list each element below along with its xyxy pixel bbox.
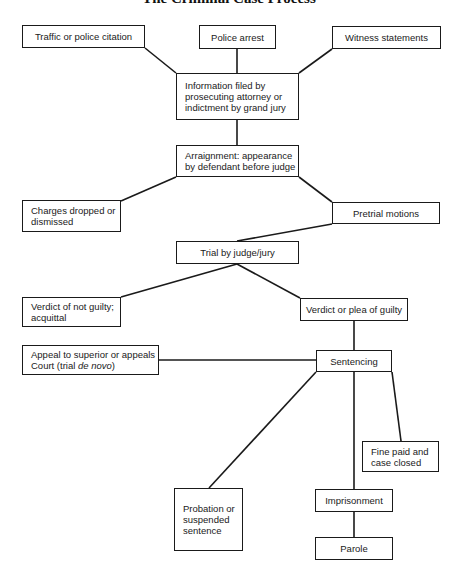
edge-trial-guilty: [237, 264, 300, 298]
node-label: Witness statements: [345, 32, 428, 43]
node-witness-statements: Witness statements: [332, 26, 441, 49]
node-verdict-guilty: Verdict or plea of guilty: [300, 298, 408, 321]
node-pretrial-motions: Pretrial motions: [332, 202, 440, 224]
node-label: Appeal to superior or appeals Court (tri…: [31, 349, 157, 371]
node-label: Charges dropped or dismissed: [31, 205, 119, 227]
node-information-filed: Information filed by prosecuting attorne…: [176, 73, 299, 120]
node-arraignment: Arraignment: appearance by defendant bef…: [176, 145, 299, 177]
node-label: Parole: [340, 543, 367, 554]
appeal-label-suffix: ): [112, 360, 115, 371]
appeal-label-italic: de novo: [78, 360, 112, 371]
node-parole: Parole: [315, 537, 393, 560]
node-label: Traffic or police citation: [35, 31, 132, 42]
node-label: Fine paid and case closed: [371, 446, 433, 468]
node-traffic-citation: Traffic or police citation: [22, 25, 145, 48]
node-label: Police arrest: [211, 32, 264, 43]
edge-arraignment-charges: [121, 177, 176, 201]
node-police-arrest: Police arrest: [199, 25, 276, 49]
node-label: Arraignment: appearance by defendant bef…: [185, 150, 297, 172]
node-label: Probation or suspended sentence: [183, 503, 235, 536]
edge-pretrial-trial: [237, 224, 332, 241]
edge-witness-information: [299, 49, 332, 73]
node-label: Imprisonment: [325, 495, 383, 506]
node-label: Sentencing: [330, 356, 378, 367]
node-imprisonment: Imprisonment: [315, 489, 393, 512]
node-label: Pretrial motions: [353, 208, 419, 219]
node-label: Verdict of not guilty; acquittal: [31, 301, 119, 323]
node-trial: Trial by judge/jury: [176, 241, 299, 264]
node-sentencing: Sentencing: [316, 350, 392, 372]
edge-arraignment-pretrial: [299, 177, 332, 202]
edge-sentencing-fine: [392, 372, 401, 441]
node-verdict-not-guilty: Verdict of not guilty; acquittal: [22, 297, 121, 327]
edge-trial-notguilty: [121, 264, 237, 297]
node-probation: Probation or suspended sentence: [174, 488, 243, 551]
node-charges-dropped: Charges dropped or dismissed: [22, 200, 121, 232]
node-label: Verdict or plea of guilty: [306, 304, 402, 315]
node-label: Trial by judge/jury: [200, 247, 275, 258]
node-label: Information filed by prosecuting attorne…: [185, 80, 295, 113]
node-fine-paid: Fine paid and case closed: [362, 441, 439, 472]
edge-traffic-information: [145, 48, 176, 73]
node-appeal: Appeal to superior or appeals Court (tri…: [22, 345, 159, 375]
edge-sentencing-probation: [209, 372, 316, 488]
